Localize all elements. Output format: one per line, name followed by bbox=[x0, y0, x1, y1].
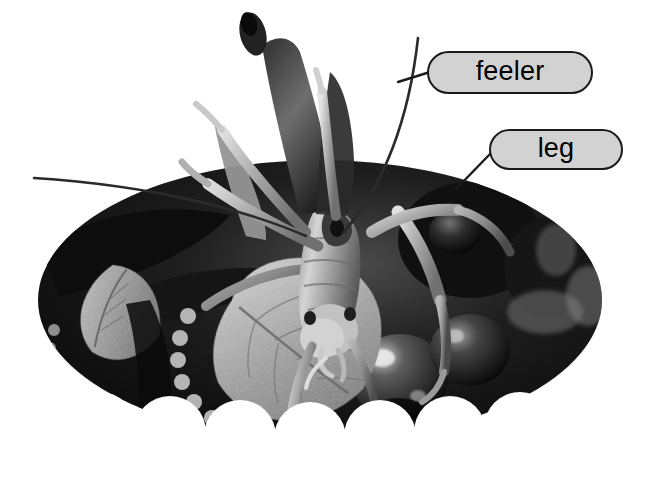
figure-canvas: feeler leg bbox=[0, 0, 661, 496]
leader-line-leg bbox=[456, 152, 492, 189]
leader-line-feeler bbox=[398, 72, 430, 82]
callout-feeler[interactable]: feeler bbox=[427, 51, 593, 94]
callout-feeler-label: feeler bbox=[476, 58, 545, 88]
callout-leg-label: leg bbox=[538, 135, 575, 165]
callout-leg[interactable]: leg bbox=[489, 129, 623, 170]
